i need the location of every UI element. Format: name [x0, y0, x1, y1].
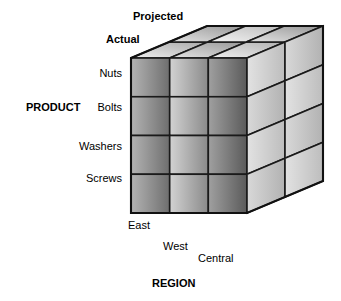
- product-member-bolts: Bolts: [56, 101, 122, 113]
- product-member-nuts: Nuts: [56, 67, 122, 79]
- product-member-washers: Washers: [46, 140, 122, 152]
- cube-front-face: [131, 58, 247, 213]
- product-member-screws: Screws: [46, 172, 122, 184]
- scenario-label-actual: Actual: [106, 33, 140, 45]
- region-member-east: East: [128, 219, 150, 231]
- figure-canvas: Projected Actual PRODUCT Nuts Bolts Wash…: [0, 0, 341, 301]
- region-member-west: West: [163, 240, 188, 252]
- region-axis-label: REGION: [152, 277, 195, 289]
- region-member-central: Central: [198, 252, 233, 264]
- scenario-label-projected: Projected: [133, 10, 183, 22]
